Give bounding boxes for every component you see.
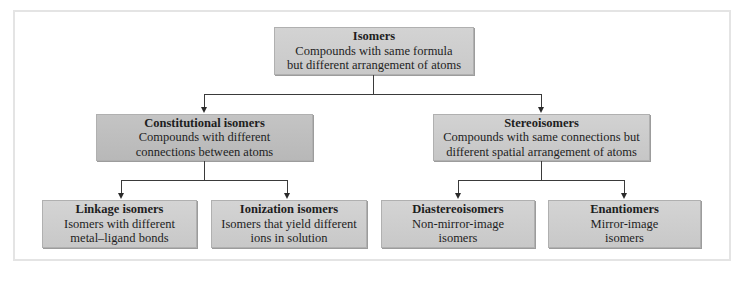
isomers-title: Isomers (353, 29, 395, 44)
linkage-isomers-description: Isomers with different metal–ligand bond… (64, 217, 175, 246)
connector-to-diastereo (458, 180, 459, 194)
ionization-isomers-title: Ionization isomers (240, 202, 338, 217)
connector-to-enantiomers (624, 180, 625, 194)
arrow-to-linkage-icon (118, 193, 124, 199)
ionization-isomers-description: Isomers that yield different ions in sol… (221, 217, 357, 246)
connector-to-constitutional (204, 94, 205, 108)
connector-to-ionization (287, 180, 288, 194)
connector-stereo-horizontal (458, 180, 625, 181)
diastereoisomers-title: Diastereoisomers (412, 202, 503, 217)
constitutional-isomers-box: Constitutional isomers Compounds with di… (96, 114, 313, 161)
enantiomers-box: Enantiomers Mirror-image isomers (548, 200, 701, 248)
connector-stereo-vertical (541, 161, 542, 180)
enantiomers-description: Mirror-image isomers (591, 217, 659, 246)
constitutional-isomers-title: Constitutional isomers (144, 116, 265, 131)
connector-constitutional-horizontal (121, 180, 288, 181)
isomers-description: Compounds with same formula but differen… (287, 44, 461, 73)
arrow-to-enantiomers-icon (621, 193, 627, 199)
stereoisomers-title: Stereoisomers (504, 116, 579, 131)
constitutional-isomers-description: Compounds with different connections bet… (136, 130, 273, 159)
arrow-to-stereo-icon (538, 107, 544, 113)
ionization-isomers-box: Ionization isomers Isomers that yield di… (211, 200, 367, 248)
isomers-box: Isomers Compounds with same formula but … (274, 27, 474, 75)
linkage-isomers-box: Linkage isomers Isomers with different m… (42, 200, 197, 248)
connector-root-vertical (373, 75, 374, 94)
connector-to-stereo (541, 94, 542, 108)
connector-to-linkage (121, 180, 122, 194)
connector-constitutional-vertical (204, 161, 205, 180)
diastereoisomers-box: Diastereoisomers Non-mirror-image isomer… (381, 200, 535, 248)
linkage-isomers-title: Linkage isomers (76, 202, 164, 217)
stereoisomers-description: Compounds with same connections but diff… (443, 130, 640, 159)
stereoisomers-box: Stereoisomers Compounds with same connec… (433, 114, 650, 161)
arrow-to-diastereo-icon (455, 193, 461, 199)
enantiomers-title: Enantiomers (590, 202, 659, 217)
connector-level1-horizontal (204, 94, 542, 95)
arrow-to-constitutional-icon (201, 107, 207, 113)
diastereoisomers-description: Non-mirror-image isomers (412, 217, 504, 246)
arrow-to-ionization-icon (284, 193, 290, 199)
